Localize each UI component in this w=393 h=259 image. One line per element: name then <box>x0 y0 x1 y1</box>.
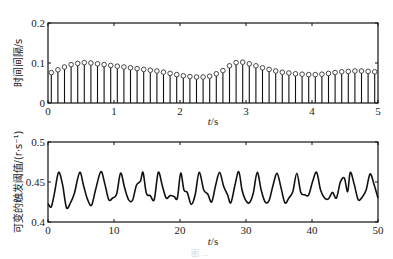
stem-marker <box>135 66 140 71</box>
bottom-line-plot: 01020304050 0.40.450.5 t/s 可变的触发阈值/(r·s⁻… <box>12 130 384 247</box>
x-tick-label: 4 <box>309 105 315 117</box>
stem-marker <box>260 66 265 71</box>
y-tick-label: 0.1 <box>31 57 45 69</box>
stem-marker <box>339 70 344 75</box>
figure: 012345 00.10.2 t/s 时间间隔/s 01020304050 0.… <box>0 0 393 259</box>
stem-marker <box>359 69 364 74</box>
x-tick-label: 30 <box>241 224 253 236</box>
stem-marker <box>141 67 146 72</box>
stem-marker <box>148 68 153 73</box>
x-tick-label: 5 <box>375 105 381 117</box>
x-tick-label: 50 <box>373 224 385 236</box>
stem-marker <box>56 68 61 73</box>
stem-marker <box>273 69 278 74</box>
stem-marker <box>227 64 232 69</box>
stem-marker <box>194 75 199 80</box>
stem-marker <box>174 72 179 77</box>
stem-marker <box>181 74 186 79</box>
top-stems-group <box>49 60 377 103</box>
stem-marker <box>267 67 272 72</box>
stem-marker <box>108 63 113 68</box>
x-tick-label: 10 <box>109 224 121 236</box>
x-tick-label: 40 <box>307 224 319 236</box>
stem-marker <box>62 65 67 70</box>
bottom-y-axis-label: 可变的触发阈值/(r·s⁻¹) <box>12 130 24 233</box>
stem-marker <box>89 61 94 66</box>
stem-marker <box>240 60 245 65</box>
stem-marker <box>313 72 318 77</box>
stem-marker <box>115 64 120 69</box>
x-tick-label: 2 <box>177 105 183 117</box>
x-tick-label: 20 <box>175 224 187 236</box>
stem-marker <box>168 71 173 76</box>
stem-marker <box>300 72 305 77</box>
stem-marker <box>353 69 358 74</box>
stem-marker <box>69 62 74 67</box>
stem-marker <box>75 61 80 66</box>
top-x-axis-label: t/s <box>208 115 218 127</box>
stem-marker <box>293 72 298 77</box>
x-tick-label: 0 <box>45 105 51 117</box>
stem-marker <box>214 72 219 77</box>
top-y-axis-label: 时间间隔/s <box>12 39 24 88</box>
x-tick-label: 3 <box>243 105 249 117</box>
stem-marker <box>320 72 325 77</box>
stem-marker <box>254 64 259 69</box>
stem-marker <box>306 72 311 77</box>
stem-marker <box>95 62 100 67</box>
x-tick-label: 1 <box>111 105 117 117</box>
bottom-x-axis-label: t/s <box>208 235 218 247</box>
stem-marker <box>247 62 252 67</box>
stem-marker <box>188 74 193 79</box>
y-tick-label: 0.2 <box>31 17 45 29</box>
stem-marker <box>346 69 351 74</box>
y-tick-label: 0 <box>40 97 46 109</box>
stem-marker <box>333 70 338 75</box>
stem-marker <box>221 68 226 73</box>
y-tick-label: 0.4 <box>31 216 45 228</box>
threshold-line <box>48 172 378 209</box>
stem-marker <box>207 74 212 79</box>
stem-marker <box>234 60 239 65</box>
stem-marker <box>287 71 292 76</box>
stem-marker <box>122 65 127 70</box>
stem-marker <box>155 69 160 74</box>
stem-marker <box>201 75 206 80</box>
y-tick-label: 0.5 <box>31 136 45 148</box>
stem-marker <box>366 69 371 74</box>
stem-marker <box>326 71 331 76</box>
y-tick-label: 0.45 <box>26 176 46 188</box>
stem-marker <box>161 70 166 75</box>
top-stem-plot: 012345 00.10.2 t/s 时间间隔/s <box>12 17 381 127</box>
x-tick-label: 0 <box>45 224 51 236</box>
stem-marker <box>82 60 87 65</box>
stem-marker <box>280 70 285 75</box>
stem-marker <box>102 62 107 67</box>
stem-marker <box>49 70 54 75</box>
stem-marker <box>372 70 377 75</box>
figure-caption: 图 ... <box>191 249 209 258</box>
stem-marker <box>128 66 133 71</box>
